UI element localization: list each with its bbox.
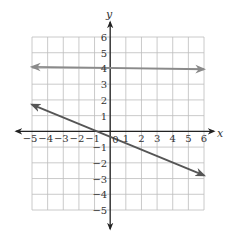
y-tick-label: 1 <box>101 111 107 122</box>
y-tick-label: −2 <box>92 158 107 169</box>
grid <box>32 37 204 210</box>
y-tick-label: −3 <box>92 174 107 185</box>
y-tick-label: −1 <box>92 142 107 153</box>
y-tick-label: 6 <box>101 32 107 43</box>
y-tick-label: −5 <box>92 205 107 216</box>
plotted-lines <box>32 67 204 176</box>
x-tick-label: −3 <box>54 133 69 144</box>
x-tick-label: −4 <box>38 133 53 144</box>
line-horizontal-line <box>32 67 204 69</box>
tick-labels: −5−4−3−2−11234560123456−1−2−3−4−5 <box>23 32 208 216</box>
y-tick-label: 5 <box>101 48 107 59</box>
x-tick-label: 4 <box>170 133 176 144</box>
x-tick-label: −2 <box>70 133 85 144</box>
coordinate-plane: −5−4−3−2−11234560123456−1−2−3−4−5 x y <box>0 0 234 239</box>
x-tick-label: 1 <box>123 133 129 144</box>
y-tick-label: 2 <box>101 95 107 106</box>
x-tick-label: 3 <box>154 133 160 144</box>
y-tick-label: 3 <box>101 79 107 90</box>
x-tick-label: −5 <box>23 133 38 144</box>
x-tick-label: 2 <box>138 133 144 144</box>
x-tick-label: 5 <box>185 133 191 144</box>
y-tick-label: 4 <box>101 63 107 74</box>
origin-label: 0 <box>112 134 118 145</box>
x-axis-label: x <box>217 127 224 140</box>
y-tick-label: −4 <box>92 189 107 200</box>
x-tick-label: 6 <box>201 133 207 144</box>
y-axis-label: y <box>105 8 113 21</box>
